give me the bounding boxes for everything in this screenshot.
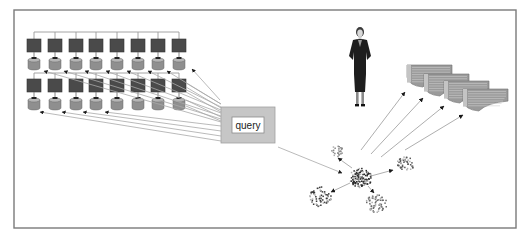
server-node-icon xyxy=(69,39,83,52)
database-icon xyxy=(90,57,102,70)
server-node-icon xyxy=(48,79,62,92)
server-node-icon xyxy=(27,79,41,92)
server-node-icon xyxy=(69,79,83,92)
query-label: query xyxy=(235,120,260,131)
server-node-icon xyxy=(48,39,62,52)
database-icon xyxy=(70,97,82,110)
database-icon xyxy=(111,57,123,70)
server-node-icon xyxy=(110,39,124,52)
database-icon xyxy=(152,57,164,70)
query-box: query xyxy=(221,107,275,143)
database-icon xyxy=(49,57,61,70)
server-node-icon xyxy=(172,39,186,52)
database-icon xyxy=(173,57,185,70)
server-node-icon xyxy=(89,39,103,52)
database-icon xyxy=(111,97,123,110)
diagram-canvas: query xyxy=(0,0,530,238)
database-icon xyxy=(28,97,40,110)
database-icon xyxy=(90,97,102,110)
database-icon xyxy=(132,57,144,70)
database-icon xyxy=(28,57,40,70)
server-node-icon xyxy=(27,39,41,52)
database-icon xyxy=(49,97,61,110)
server-node-icon xyxy=(131,39,145,52)
database-icon xyxy=(70,57,82,70)
server-node-icon xyxy=(151,39,165,52)
